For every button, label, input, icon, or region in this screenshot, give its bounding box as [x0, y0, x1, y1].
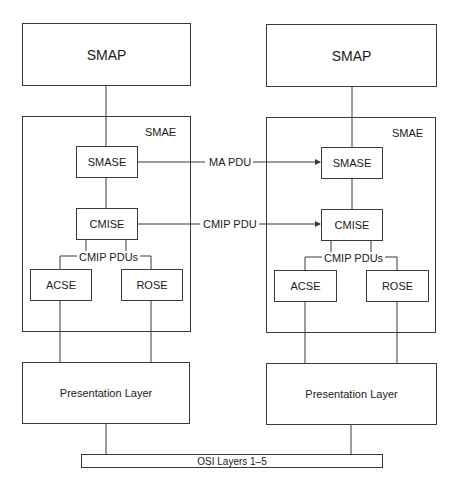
left-acse-box: ACSE	[30, 269, 92, 301]
left-smase-box: SMASE	[76, 146, 138, 178]
left-acse-label: ACSE	[46, 279, 76, 291]
right-smase-box: SMASE	[321, 147, 383, 179]
right-smap-box: SMAP	[266, 24, 437, 87]
right-cmip-pdus-label: CMIP PDUs	[322, 252, 385, 264]
right-acse-label: ACSE	[291, 280, 321, 292]
left-smap-label: SMAP	[87, 47, 127, 63]
right-acse-box: ACSE	[274, 270, 337, 302]
left-smae-label: SMAE	[145, 126, 176, 138]
left-smap-box: SMAP	[22, 23, 191, 86]
left-smase-label: SMASE	[88, 156, 127, 168]
ma-pdu-label: MA PDU	[207, 156, 253, 168]
right-cmise-label: CMISE	[335, 219, 370, 231]
left-presentation-label: Presentation Layer	[60, 387, 152, 399]
left-cmip-pdus-label: CMIP PDUs	[77, 251, 140, 263]
right-smase-label: SMASE	[333, 157, 372, 169]
right-presentation-layer-box: Presentation Layer	[266, 363, 437, 425]
left-presentation-layer-box: Presentation Layer	[22, 362, 190, 424]
cmip-pdu-label: CMIP PDU	[201, 218, 259, 230]
right-rose-box: ROSE	[366, 270, 429, 302]
left-rose-label: ROSE	[136, 279, 167, 291]
right-presentation-label: Presentation Layer	[305, 388, 397, 400]
left-rose-box: ROSE	[121, 269, 183, 301]
right-smap-label: SMAP	[332, 48, 372, 64]
right-smae-label: SMAE	[392, 127, 423, 139]
osi-layers-label: OSI Layers 1–5	[197, 456, 266, 467]
right-cmise-box: CMISE	[321, 209, 383, 241]
right-rose-label: ROSE	[382, 280, 413, 292]
left-cmise-box: CMISE	[76, 208, 138, 240]
osi-layers-bar: OSI Layers 1–5	[81, 454, 383, 468]
left-cmise-label: CMISE	[90, 218, 125, 230]
